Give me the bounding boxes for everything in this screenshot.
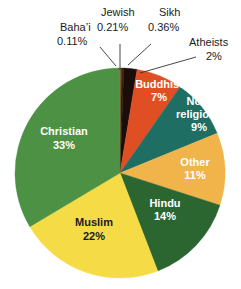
callout-jewish-name: Jewish [101,6,135,18]
slice-label-muslim-value: 22% [83,230,105,242]
callout-sikh-value: 0.36% [148,21,179,33]
callout-bahai-value: 0.11% [57,35,88,47]
callout-jewish-value: 0.21% [97,21,128,33]
slice-label-christian-name: Christian [40,125,88,137]
slice-label-nonreligious-line1: Non- [186,95,211,107]
slice-label-buddhist-value: 7% [151,91,167,103]
callout-atheists-name: Atheists [189,36,229,48]
callout-bahai-name: Baha’i [60,21,91,33]
slice-label-other-name: Other [180,156,210,168]
slice-label-nonreligious-line2: religious [176,108,222,120]
slice-label-buddhist-name: Buddhist [135,78,183,90]
slice-label-other-value: 11% [184,169,206,181]
slice-label-hindu-value: 14% [154,210,176,222]
callout-atheists-value: 2% [206,50,222,62]
slice-label-nonreligious-value: 9% [191,121,207,133]
slice-label-christian-value: 33% [53,139,75,151]
slice-label-muslim-name: Muslim [75,216,113,228]
pie-chart-figure: Baha’i 0.11% Jewish 0.21% Sikh 0.36% Ath… [0,0,241,289]
slice-label-hindu-name: Hindu [149,197,180,209]
callout-sikh-name: Sikh [159,6,180,18]
pie-chart-svg: Baha’i 0.11% Jewish 0.21% Sikh 0.36% Ath… [0,0,241,289]
